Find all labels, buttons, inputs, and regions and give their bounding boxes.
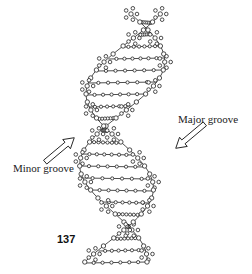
major-groove-label: Major groove bbox=[178, 113, 238, 125]
dna-helix-diagram bbox=[0, 0, 252, 274]
minor-groove-label: Minor groove bbox=[13, 162, 74, 174]
figure-number: 137 bbox=[57, 233, 75, 245]
